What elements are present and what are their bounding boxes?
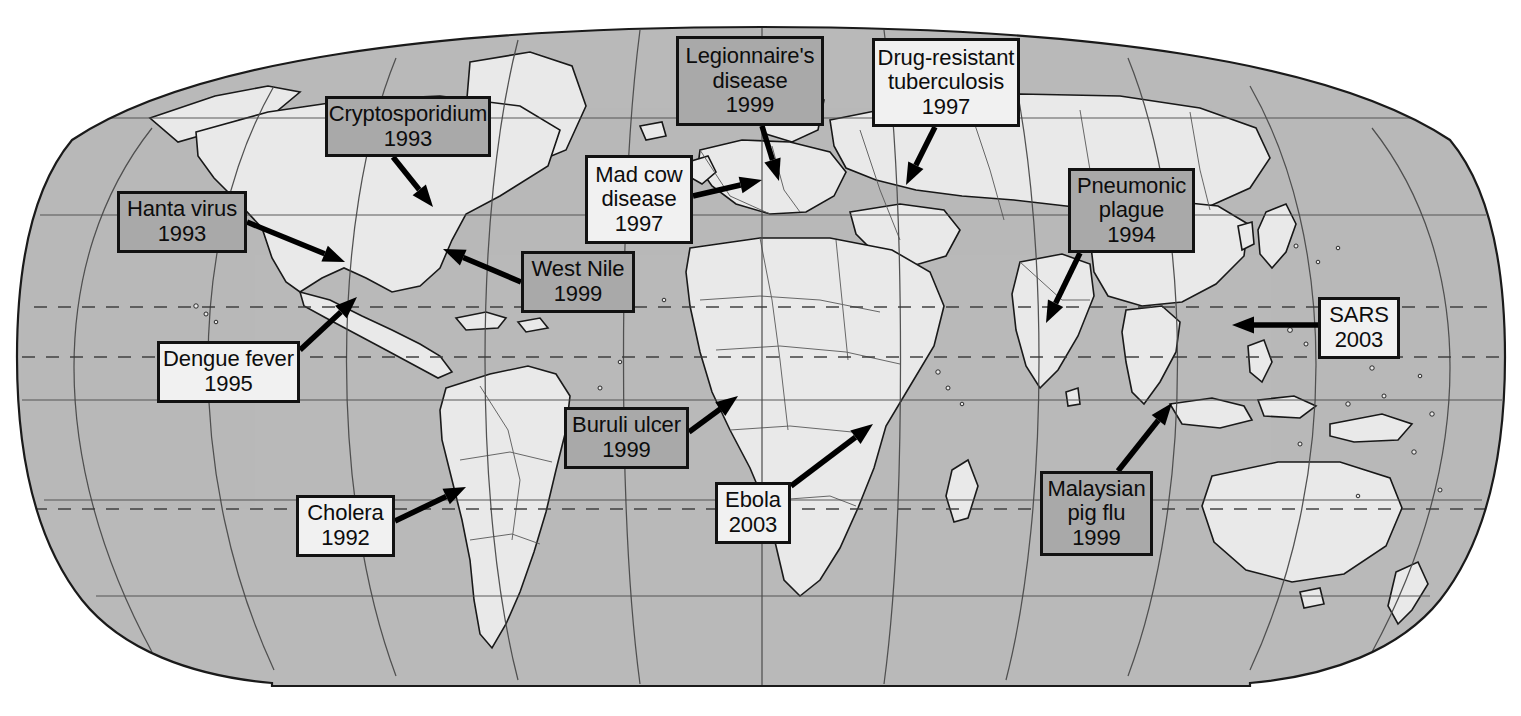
outbreak-year-pneumonic-plague: 1994 [1107,223,1156,248]
label-box-buruli-ulcer: Buruli ulcer1999 [564,407,689,469]
outbreak-year-drug-resistant-tuberculosis: 1997 [922,95,971,120]
disease-name-malaysian-pig-flu: Malaysian pig flu [1043,477,1150,526]
disease-name-legionnaires-disease: Legionnaire's disease [679,44,821,93]
label-box-cholera: Cholera1992 [296,495,395,557]
disease-name-hanta-virus: Hanta virus [127,197,237,222]
label-box-ebola: Ebola2003 [715,482,791,544]
label-box-malaysian-pig-flu: Malaysian pig flu1999 [1040,471,1153,556]
outbreak-year-malaysian-pig-flu: 1999 [1072,526,1121,551]
disease-name-buruli-ulcer: Buruli ulcer [572,413,681,438]
outbreak-year-hanta-virus: 1993 [158,222,207,247]
disease-name-sars: SARS [1329,303,1389,328]
outbreak-year-dengue-fever: 1995 [204,372,253,397]
infectious-disease-world-map: Hanta virus1993Cryptosporidium1993Dengue… [0,0,1521,716]
outbreak-year-cryptosporidium: 1993 [384,127,433,152]
label-box-mad-cow-disease: Mad cow disease1997 [585,155,693,244]
outbreak-year-ebola: 2003 [729,513,778,538]
label-box-hanta-virus: Hanta virus1993 [117,191,247,253]
disease-name-mad-cow-disease: Mad cow disease [588,163,690,212]
outbreak-year-sars: 2003 [1335,328,1384,353]
disease-name-pneumonic-plague: Pneumonic plague [1071,174,1192,223]
outbreak-year-west-nile: 1999 [554,282,603,307]
label-box-drug-resistant-tuberculosis: Drug-resistant tuberculosis1997 [872,38,1020,127]
outbreak-year-buruli-ulcer: 1999 [602,438,651,463]
label-box-west-nile: West Nile1999 [521,251,635,313]
disease-name-west-nile: West Nile [532,257,625,282]
label-box-dengue-fever: Dengue fever1995 [157,341,300,403]
label-box-cryptosporidium: Cryptosporidium1993 [325,96,491,157]
disease-name-drug-resistant-tuberculosis: Drug-resistant tuberculosis [875,46,1017,95]
outbreak-year-legionnaires-disease: 1999 [726,93,775,118]
disease-name-cryptosporidium: Cryptosporidium [329,102,488,127]
label-box-sars: SARS2003 [1318,297,1400,359]
outbreak-year-cholera: 1992 [321,526,370,551]
disease-name-ebola: Ebola [725,488,781,513]
disease-name-dengue-fever: Dengue fever [163,347,294,372]
outbreak-year-mad-cow-disease: 1997 [615,212,664,237]
disease-name-cholera: Cholera [307,501,383,526]
label-box-legionnaires-disease: Legionnaire's disease1999 [676,36,824,126]
label-box-pneumonic-plague: Pneumonic plague1994 [1068,168,1195,253]
